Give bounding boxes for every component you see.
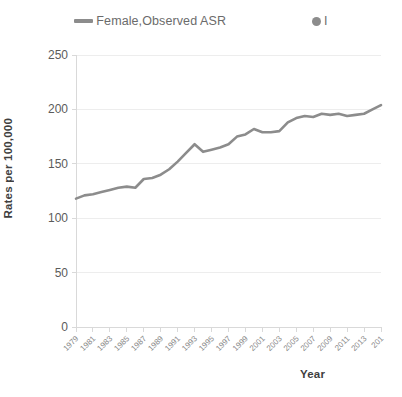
chart-container: Female,Observed ASR I Rates per 100,000 … <box>0 0 402 397</box>
data-series-group <box>76 105 381 199</box>
y-tick-label: 50 <box>55 266 69 280</box>
y-tick-label: 250 <box>48 48 68 62</box>
y-tick-label: 200 <box>48 102 68 116</box>
x-axis-tick-labels: 1979198119831985198719891991199319951997… <box>61 334 385 353</box>
y-tick-label: 0 <box>61 320 68 334</box>
x-tick-label: 201 <box>370 334 386 350</box>
x-tick-label: 2001 <box>248 334 267 353</box>
y-tick-label: 150 <box>48 157 68 171</box>
gridlines <box>72 55 381 327</box>
x-tick-label: 2007 <box>299 334 318 353</box>
series-line-female-observed-asr <box>76 105 381 199</box>
x-tick-label: 1979 <box>61 334 80 353</box>
x-tick-label: 1991 <box>163 334 182 353</box>
x-tick-label: 1989 <box>146 334 165 353</box>
x-tick-label: 2005 <box>282 334 301 353</box>
plot-area: 050100150200250 197919811983198519871989… <box>0 0 402 397</box>
x-tick-label: 1997 <box>214 334 233 353</box>
x-tick-label: 1987 <box>129 334 148 353</box>
x-tick-label: 1983 <box>95 334 114 353</box>
x-tick-label: 1995 <box>197 334 216 353</box>
x-tick-label: 2003 <box>265 334 284 353</box>
y-axis-tick-labels: 050100150200250 <box>48 48 68 334</box>
x-tick-label: 1985 <box>112 334 131 353</box>
x-axis <box>76 327 381 332</box>
x-tick-label: 1993 <box>180 334 199 353</box>
chart-svg: 050100150200250 197919811983198519871989… <box>0 0 402 397</box>
x-tick-label: 2011 <box>333 334 352 353</box>
x-tick-label: 2013 <box>350 334 369 353</box>
x-tick-label: 1999 <box>231 334 250 353</box>
x-tick-label: 1981 <box>78 334 97 353</box>
x-tick-label: 2009 <box>316 334 335 353</box>
y-tick-label: 100 <box>48 211 68 225</box>
